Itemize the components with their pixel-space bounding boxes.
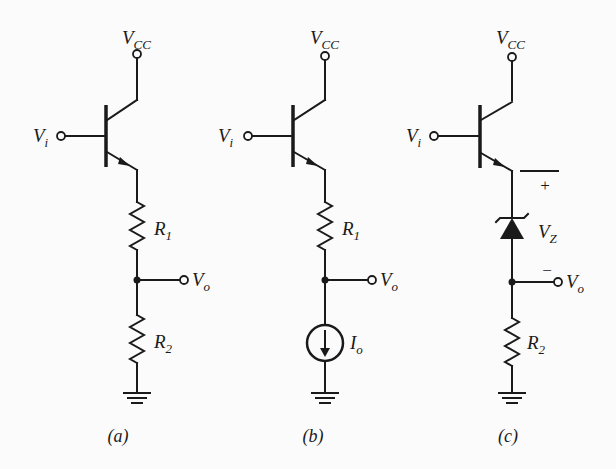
ground-icon: [312, 393, 338, 403]
resistor-r2-icon: [130, 315, 144, 363]
npn-transistor-icon: [480, 102, 512, 171]
vo-terminal-b: [368, 276, 376, 284]
vo-terminal-c: [554, 278, 562, 286]
npn-transistor-icon: [106, 100, 137, 170]
r2-label-a: R2: [153, 331, 173, 356]
caption-c: (c): [498, 426, 518, 447]
vcc-label-b: VCC: [310, 27, 339, 52]
vi-terminal-b: [244, 132, 252, 140]
io-label-b: Io: [349, 332, 363, 357]
vo-label-a: Vo: [192, 269, 211, 294]
r2-label-c: R2: [526, 332, 546, 357]
vcc-terminal-b: [321, 52, 329, 60]
current-source-icon: [307, 325, 343, 361]
circuit-c: VCC Vi + VZ − Vo R2: [406, 27, 585, 447]
vo-label-c: Vo: [566, 271, 585, 296]
r1-label-a: R1: [153, 218, 172, 243]
vi-label-c: Vi: [406, 125, 422, 150]
circuit-a: VCC Vi R1 Vo R2 (a): [33, 27, 211, 447]
vi-terminal-a: [57, 132, 65, 140]
resistor-r1-icon: [318, 202, 332, 250]
vz-label-c: VZ: [538, 221, 558, 246]
vcc-terminal-c: [508, 53, 516, 61]
ground-icon: [499, 393, 525, 403]
r1-label-b: R1: [341, 218, 360, 243]
vi-label-a: Vi: [33, 125, 49, 150]
vcc-label-c: VCC: [496, 27, 525, 52]
caption-a: (a): [108, 426, 129, 447]
vcc-terminal-a: [133, 50, 141, 58]
resistor-r2-icon: [505, 318, 519, 366]
plus-sign: +: [540, 176, 550, 195]
vi-label-b: Vi: [218, 125, 234, 150]
vo-terminal-a: [180, 276, 188, 284]
caption-b: (b): [303, 426, 324, 447]
vcc-label-a: VCC: [122, 27, 151, 52]
zener-diode-icon: [496, 214, 528, 239]
resistor-r1-icon: [130, 202, 144, 250]
minus-sign: −: [542, 261, 552, 280]
ground-icon: [124, 393, 150, 403]
vo-label-b: Vo: [380, 269, 399, 294]
vi-terminal-c: [430, 132, 438, 140]
circuit-b: VCC Vi R1 Vo Io (b): [218, 27, 399, 447]
npn-transistor-icon: [293, 100, 325, 170]
